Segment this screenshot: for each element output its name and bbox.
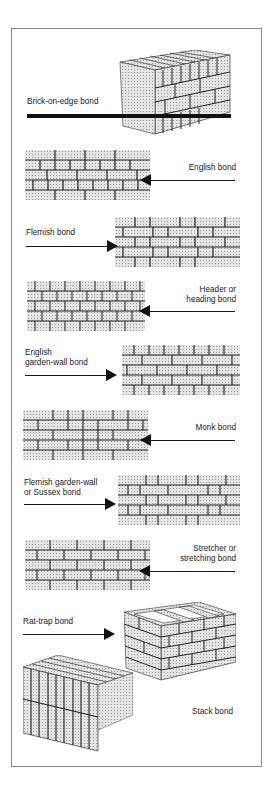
flemish-garden-wall-bond-label: Flemish garden-wall or Sussex bond xyxy=(24,478,97,498)
english-garden-wall-bond-arrow-line xyxy=(25,375,107,376)
stack-bond-wall-illustration xyxy=(23,655,133,753)
header-bond-arrow-line xyxy=(149,311,235,312)
english-garden-wall-bond-label: English garden-wall bond xyxy=(25,348,88,368)
monk-bond-label: Monk bond xyxy=(195,423,236,433)
brick-on-edge-label: Brick-on-edge bond xyxy=(27,97,98,107)
brick-on-edge-wall-illustration xyxy=(115,50,235,138)
flemish-garden-wall-bond-wall-illustration xyxy=(118,475,240,525)
rat-trap-bond-wall-illustration xyxy=(124,602,236,682)
english-garden-wall-bond-arrow-head xyxy=(106,369,117,381)
english-garden-wall-bond-wall-illustration xyxy=(122,345,240,395)
monk-bond-wall-illustration xyxy=(23,410,148,460)
rat-trap-bond-label: Rat-trap bond xyxy=(23,617,73,627)
header-bond-wall-illustration xyxy=(27,281,145,331)
brick-on-edge-pointer-line xyxy=(27,114,231,118)
header-bond-label: Header or heading bond xyxy=(186,285,236,305)
flemish-bond-label: Flemish bond xyxy=(26,228,75,238)
rat-trap-bond-arrow-line xyxy=(23,634,105,635)
rat-trap-bond-arrow-head xyxy=(104,628,115,640)
flemish-garden-wall-bond-arrow-line xyxy=(24,504,106,505)
stretcher-bond-wall-illustration xyxy=(25,540,150,590)
flemish-bond-arrow-line xyxy=(26,246,108,247)
english-bond-wall-illustration xyxy=(25,150,150,200)
flemish-bond-wall-illustration xyxy=(115,217,240,267)
english-bond-arrow-line xyxy=(150,180,235,181)
stretcher-bond-label: Stretcher or stretching bond xyxy=(180,544,236,564)
stretcher-bond-arrow-line xyxy=(149,571,235,572)
monk-bond-arrow-line xyxy=(150,440,235,441)
flemish-garden-wall-bond-arrow-head xyxy=(105,498,116,510)
flemish-bond-arrow-head xyxy=(107,240,118,252)
stack-bond-label: Stack bond xyxy=(192,707,233,717)
english-bond-label: English bond xyxy=(189,163,236,173)
